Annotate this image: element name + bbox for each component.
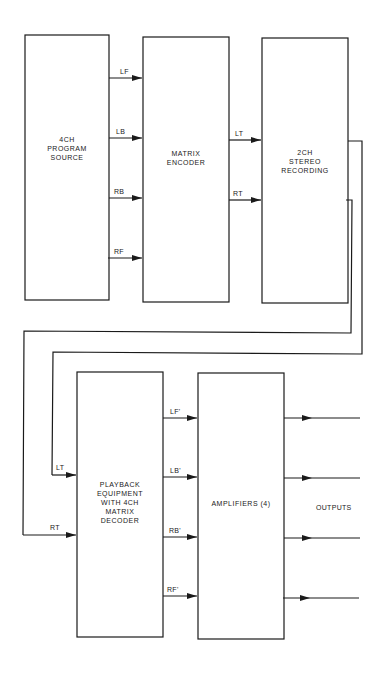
matrix-encoder-label: MATRIX ENCODER [143,149,229,167]
signal-lt: LT [235,130,243,137]
signal-rt-in: RT [50,524,60,531]
signal-rf-prime: RF' [167,586,179,593]
signal-lb-prime: LB' [170,467,181,474]
signal-lb: LB [116,128,125,135]
stereo-recording-label: 2CH STEREO RECORDING [262,148,348,175]
program-source-label: 4CH PROGRAM SOURCE [25,135,109,162]
block-diagram-lines [0,0,383,674]
box-program-source [25,35,109,300]
signal-lf-prime: LF' [170,408,180,415]
signal-lf: LF [120,68,129,75]
playback-decoder-label: PLAYBACK EQUIPMENT WITH 4CH MATRIX DECOD… [77,480,163,525]
signal-rt: RT [233,190,243,197]
signal-rf: RF [114,248,124,255]
amplifiers-label: AMPLIFIERS (4) [198,499,284,508]
signal-lt-in: LT [56,464,64,471]
signal-rb: RB [114,188,124,195]
outputs-label: OUTPUTS [316,504,352,511]
signal-rb-prime: RB' [169,527,181,534]
box-matrix-encoder [143,37,229,302]
